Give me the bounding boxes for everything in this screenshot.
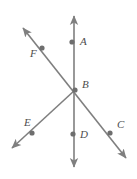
point-dot-d — [70, 131, 75, 136]
ray-BE — [12, 90, 75, 148]
point-dot-a — [69, 39, 74, 44]
point-label-a: A — [79, 35, 87, 47]
point-label-b: B — [82, 78, 89, 90]
lines-group — [12, 16, 126, 167]
point-dot-c — [107, 130, 112, 135]
point-label-e: E — [23, 116, 31, 128]
point-dot-e — [29, 130, 34, 135]
point-label-f: F — [29, 47, 37, 59]
point-dot-f — [39, 45, 44, 50]
geometry-figure: A B C D E F — [0, 0, 137, 179]
point-dot-b — [72, 87, 77, 92]
point-label-d: D — [79, 128, 88, 140]
geometry-diagram-canvas: A B C D E F — [0, 0, 137, 179]
point-label-c: C — [117, 118, 125, 130]
